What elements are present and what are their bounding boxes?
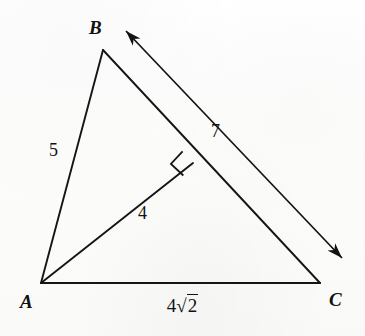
- double-headed-length-arrow: [126, 31, 342, 258]
- vertex-label-b: B: [89, 18, 102, 37]
- segment-bc: [103, 50, 320, 283]
- radical-coefficient: 4: [167, 295, 177, 316]
- radical-expression: 4√2: [167, 296, 198, 315]
- measure-label-arrow-length: 7: [211, 122, 220, 140]
- geometry-figure: A B C 5 4 7 4√2: [0, 0, 365, 336]
- radicand-value: 2: [187, 294, 199, 316]
- measure-label-base-ac: 4√2: [0, 296, 365, 315]
- triangle-diagram-canvas: [0, 0, 365, 336]
- segment-ab: [41, 50, 103, 283]
- measure-label-side-ab: 5: [49, 141, 58, 159]
- radical-sign-icon: √: [176, 295, 186, 316]
- measure-label-altitude: 4: [138, 204, 147, 222]
- segment-altitude-ad: [41, 163, 193, 283]
